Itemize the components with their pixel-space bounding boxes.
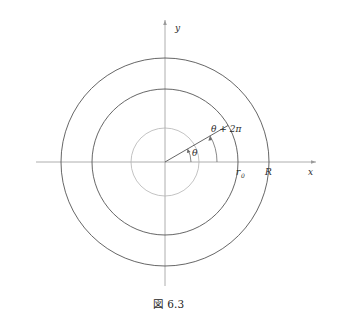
axes-group [36, 20, 316, 286]
radius-r0-label: r 0 [236, 167, 245, 179]
polar-annulus-diagram: y x θ θ + 2π r 0 R [0, 0, 338, 326]
x-axis-label: x [308, 167, 313, 177]
figure-container: y x θ θ + 2π r 0 R 図 6.3 [0, 0, 338, 326]
radius-r0-label-subscript: 0 [241, 172, 245, 179]
figure-caption: 図 6.3 [0, 296, 338, 311]
theta-arc-arrowhead [187, 149, 191, 153]
theta-plus-two-pi-label: θ + 2π [211, 124, 242, 134]
y-axis-label: y [174, 23, 181, 33]
y-axis-arrowhead [163, 20, 167, 25]
theta-label: θ [192, 148, 198, 158]
radius-R-label: R [264, 167, 272, 177]
x-axis-arrowhead [311, 160, 316, 164]
